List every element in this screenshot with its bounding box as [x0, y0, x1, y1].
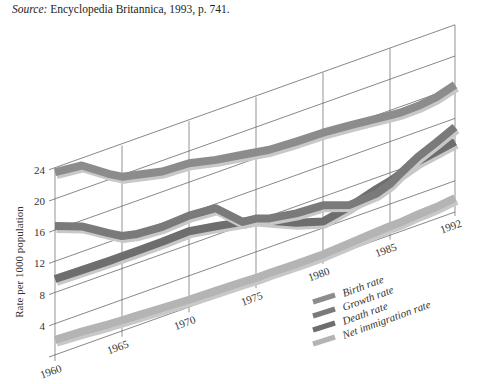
legend-swatch	[313, 337, 335, 344]
x-tick-label: 1992	[438, 217, 463, 236]
x-tick-label: 1965	[105, 337, 130, 356]
ribbon	[55, 85, 455, 177]
y-tick-label: 8	[40, 289, 46, 301]
gridline-h	[49, 25, 455, 170]
y-tick-label: 16	[34, 226, 46, 238]
y-tick-label: 4	[40, 320, 46, 332]
legend-swatch	[313, 295, 335, 302]
legend-swatch	[313, 323, 335, 330]
y-tick-label: 20	[34, 195, 46, 207]
chart-legend: Birth rateGrowth rateDeath rateNet immig…	[313, 273, 432, 344]
y-tick-label: 12	[34, 257, 45, 269]
x-tick-label: 1960	[38, 362, 63, 381]
chart: 4812162024Rate per 1000 population196019…	[0, 0, 479, 384]
x-tick-label: 1985	[373, 240, 398, 259]
ribbon	[55, 142, 455, 279]
x-tick-label: 1975	[239, 289, 264, 308]
x-tick-label: 1980	[306, 265, 331, 284]
y-axis-title: Rate per 1000 population	[13, 206, 25, 318]
ribbon-shadow	[57, 87, 457, 179]
x-tick-label: 1970	[172, 313, 197, 332]
legend-swatch	[313, 309, 335, 316]
y-tick-label: 24	[34, 164, 46, 176]
